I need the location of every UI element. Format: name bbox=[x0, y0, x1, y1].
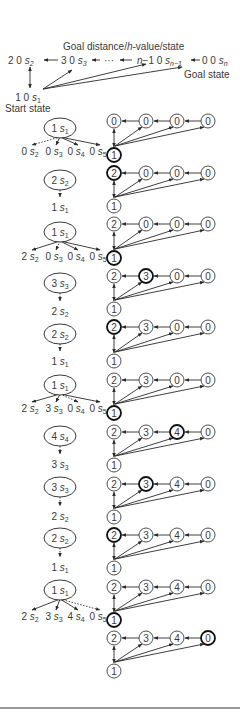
next-state-label: 2 s2 bbox=[51, 306, 68, 318]
state-space-snapshot: 23401 bbox=[107, 528, 215, 575]
h-value-label: 1 bbox=[111, 253, 117, 264]
h-value-label: 0 bbox=[174, 322, 180, 333]
state-space-snapshot: 23001 bbox=[107, 373, 215, 420]
edge-arrow bbox=[115, 386, 173, 404]
h-value-label: 4 bbox=[174, 427, 180, 438]
h-value-label: 3 bbox=[143, 633, 149, 644]
state-space-snapshot: 23401 bbox=[107, 425, 215, 472]
child-state-label: 2 s2 bbox=[21, 403, 38, 415]
chain-state-label: n−1 0 sn−1 bbox=[137, 55, 182, 67]
next-state-label: 3 s3 bbox=[51, 459, 68, 471]
backtrack-step: 2 s21 s1 bbox=[44, 324, 76, 368]
h-value-label: 1 bbox=[111, 304, 117, 315]
h-value-label: 0 bbox=[205, 375, 211, 386]
state-space-snapshot: 23001 bbox=[107, 320, 215, 368]
start-state-label: Start state bbox=[5, 103, 51, 114]
h-value-label: 3 bbox=[143, 322, 149, 333]
edge-arrow bbox=[115, 230, 173, 249]
h-value-label: 1 bbox=[111, 615, 117, 626]
child-state-label: 0 s4 bbox=[67, 146, 84, 158]
state-space-snapshot: 00001 bbox=[107, 114, 215, 162]
expansion-tree: 2 s23 s34 s40 s51 s1 bbox=[21, 580, 106, 623]
state-space-column: 0000120001200012300123001230012340123401… bbox=[107, 114, 215, 678]
h-value-label: 2 bbox=[111, 479, 117, 490]
diagram-canvas: Goal distance/h-value/state 2 0 s23 0 s3… bbox=[0, 0, 240, 711]
h-value-label: 0 bbox=[174, 375, 180, 386]
h-value-label: 0 bbox=[205, 633, 211, 644]
edge-arrow bbox=[115, 438, 173, 456]
expansion-tree: 2 s23 s30 s40 s51 s1 bbox=[21, 375, 106, 415]
state-space-snapshot: 23001 bbox=[107, 269, 215, 316]
backtrack-step: 2 s21 s1 bbox=[44, 528, 76, 574]
dashed-arrow bbox=[32, 137, 60, 145]
h-value-label: 0 bbox=[174, 219, 180, 230]
chain-state-label: 3 0 s3 bbox=[61, 55, 87, 67]
backtrack-step: 3 s32 s2 bbox=[44, 477, 76, 523]
h-value-label: 2 bbox=[111, 633, 117, 644]
child-state-label: 0 s3 bbox=[45, 251, 62, 263]
child-state-label: 2 s2 bbox=[21, 611, 38, 623]
child-state-label: 0 s4 bbox=[67, 403, 84, 415]
backtrack-step: 2 s21 s1 bbox=[44, 170, 76, 214]
child-state-label: 3 s3 bbox=[45, 403, 62, 415]
h-value-label: 0 bbox=[205, 271, 211, 282]
arrow bbox=[32, 599, 60, 610]
h-value-label: 1 bbox=[111, 460, 117, 471]
h-value-label: 2 bbox=[111, 427, 117, 438]
arrow bbox=[60, 137, 100, 145]
edge-arrow bbox=[115, 282, 173, 300]
child-state-label: 0 s5 bbox=[89, 146, 106, 158]
h-value-label: 0 bbox=[205, 427, 211, 438]
h-value-label: 2 bbox=[111, 219, 117, 230]
h-value-label: 0 bbox=[205, 322, 211, 333]
next-state-label: 2 s2 bbox=[51, 511, 68, 523]
h-value-label: 0 bbox=[174, 271, 180, 282]
chain-state-label: ··· bbox=[104, 55, 114, 66]
arrow bbox=[60, 241, 100, 250]
expansion-tree: 0 s20 s30 s40 s51 s1 bbox=[21, 118, 106, 158]
h-value-label: 4 bbox=[174, 633, 180, 644]
edge-arrow bbox=[115, 127, 173, 146]
child-state-label: 0 s3 bbox=[45, 146, 62, 158]
h-value-label: 0 bbox=[205, 116, 211, 127]
chain-state-label: 2 0 s2 bbox=[8, 55, 34, 67]
child-state-label: 0 s4 bbox=[67, 251, 84, 263]
h-value-label: 3 bbox=[143, 271, 149, 282]
h-value-label: 1 bbox=[111, 356, 117, 367]
h-value-label: 4 bbox=[174, 530, 180, 541]
edge-arrow bbox=[115, 644, 173, 662]
goal-state-label: Goal state bbox=[184, 69, 230, 80]
state-space-snapshot: 20001 bbox=[107, 217, 215, 265]
h-value-label: 0 bbox=[174, 116, 180, 127]
h-value-label: 1 bbox=[111, 150, 117, 161]
h-value-label: 0 bbox=[205, 479, 211, 490]
h-value-label: 0 bbox=[174, 168, 180, 179]
header-title: Goal distance/h-value/state bbox=[63, 41, 185, 52]
h-value-label: 2 bbox=[111, 530, 117, 541]
next-state-label: 1 s1 bbox=[51, 356, 68, 368]
arrow bbox=[60, 394, 100, 402]
h-value-label: 0 bbox=[111, 116, 117, 127]
edge-arrow bbox=[115, 333, 173, 352]
h-value-label: 0 bbox=[143, 219, 149, 230]
arrow bbox=[60, 599, 78, 610]
arrow bbox=[32, 241, 60, 250]
h-value-label: 3 bbox=[143, 530, 149, 541]
child-state-label: 0 s2 bbox=[21, 146, 38, 158]
child-state-label: 0 s5 bbox=[89, 251, 106, 263]
h-value-label: 0 bbox=[143, 116, 149, 127]
h-value-label: 2 bbox=[111, 168, 117, 179]
backtrack-step: 3 s32 s2 bbox=[44, 273, 76, 318]
goal-distance-chain: 2 0 s23 0 s3···n−1 0 sn−10 0 sn bbox=[8, 55, 228, 67]
h-value-label: 4 bbox=[174, 582, 180, 593]
header-section: Goal distance/h-value/state 2 0 s23 0 s3… bbox=[5, 41, 230, 114]
h-value-label: 0 bbox=[205, 168, 211, 179]
next-state-label: 1 s1 bbox=[51, 202, 68, 214]
backtrack-step: 4 s43 s3 bbox=[44, 426, 76, 471]
h-value-label: 1 bbox=[111, 563, 117, 574]
h-value-label: 2 bbox=[111, 582, 117, 593]
h-value-label: 1 bbox=[111, 408, 117, 419]
h-value-label: 1 bbox=[111, 201, 117, 212]
arrow bbox=[32, 394, 60, 402]
h-value-label: 1 bbox=[111, 666, 117, 677]
